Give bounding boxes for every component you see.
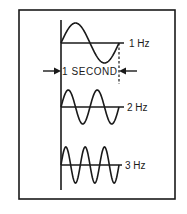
frequency-diagram: 1 Hz 1 SECOND 2 Hz 3 Hz: [0, 0, 187, 214]
label-1hz: 1 Hz: [129, 38, 150, 49]
label-2hz: 2 Hz: [127, 102, 148, 113]
right-arrowhead-icon: [119, 68, 126, 75]
wave-group-3hz: 3 Hz: [61, 147, 146, 183]
diagram-frame: [19, 10, 175, 199]
one-second-indicator: 1 SECOND: [43, 43, 137, 84]
label-3hz: 3 Hz: [125, 160, 146, 171]
wave-group-1hz: 1 Hz: [61, 23, 150, 63]
left-arrowhead-icon: [54, 68, 61, 75]
one-second-label: 1 SECOND: [62, 66, 117, 77]
wave-group-2hz: 2 Hz: [61, 90, 148, 124]
